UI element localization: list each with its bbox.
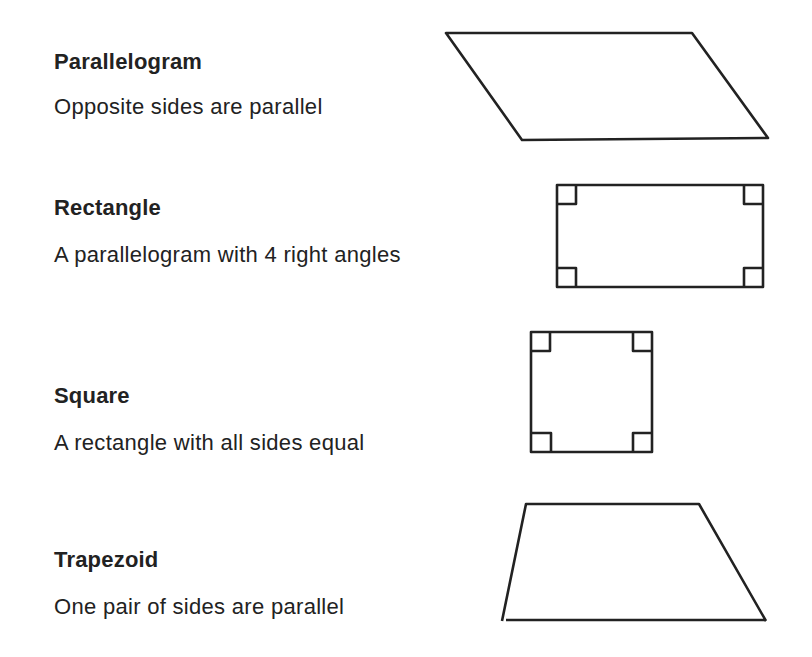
shapes-canvas	[0, 0, 812, 657]
rectangle-shape	[557, 185, 763, 287]
parallelogram-shape	[446, 33, 768, 140]
trapezoid-shape	[502, 504, 766, 621]
square-shape	[531, 332, 652, 452]
